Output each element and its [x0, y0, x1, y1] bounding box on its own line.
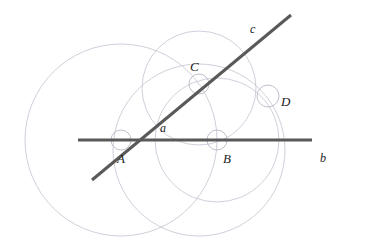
geometry-diagram: A B C D b c a: [0, 0, 365, 248]
geometry-canvas: A B C D b c a: [0, 0, 365, 248]
canvas-background: [0, 0, 365, 248]
label-line-c: c: [250, 22, 256, 36]
label-point-D: D: [280, 94, 291, 109]
label-point-B: B: [223, 151, 231, 166]
label-point-A: A: [116, 151, 125, 166]
label-line-b: b: [320, 151, 326, 165]
label-point-C: C: [190, 59, 199, 74]
label-region-a: a: [160, 121, 166, 135]
